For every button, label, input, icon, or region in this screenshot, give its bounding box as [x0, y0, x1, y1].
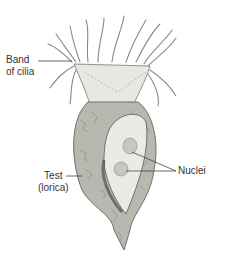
oral-collar — [74, 64, 150, 104]
label-band-of-cilia: Band of cilia — [6, 54, 34, 78]
nucleus-upper — [123, 138, 137, 154]
label-nuclei: Nuclei — [178, 165, 206, 177]
nucleus-lower — [114, 162, 128, 176]
tintinnid-diagram — [0, 0, 227, 269]
label-test-lorica: Test (lorica) — [38, 170, 69, 194]
